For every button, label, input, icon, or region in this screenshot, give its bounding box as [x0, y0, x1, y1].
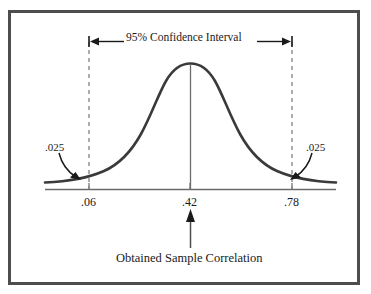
arrow-head-right-icon — [282, 37, 291, 45]
chart-caption: Obtained Sample Correlation — [116, 252, 263, 265]
x-tick-label-lower-bound: .06 — [81, 196, 96, 208]
arrow-head-up-icon — [186, 209, 195, 222]
caption-up-arrow — [186, 209, 195, 248]
alpha-right-pointer — [290, 153, 312, 180]
x-tick-label-upper-bound: .78 — [284, 196, 299, 208]
alpha-left-pointer — [59, 153, 81, 180]
confidence-interval-label: 95% Confidence Interval — [126, 32, 242, 44]
figure-root: 95% Confidence Interval .06 .42 .78 .025… — [0, 0, 371, 294]
left-tail-area-label: .025 — [45, 142, 64, 153]
x-tick-label-mean: .42 — [182, 196, 197, 208]
arrow-head-left-icon — [90, 37, 99, 45]
right-tail-area-label: .025 — [306, 142, 325, 153]
